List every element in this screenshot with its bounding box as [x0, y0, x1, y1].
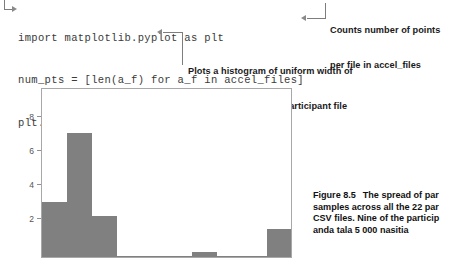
figure-caption-line-1: Figure 8.5The spread of par — [313, 190, 449, 202]
annotation-hist-line-1: Plots a histogram of uniform width of — [188, 66, 353, 78]
annotation-hist-connector-horizontal — [163, 32, 183, 33]
code-leader-arrow-icon — [12, 6, 17, 12]
plot-area — [41, 88, 292, 258]
bar-bin-1 — [42, 202, 67, 257]
bar-bin-10 — [267, 229, 292, 257]
figure-caption-line-3: CSV files. Nine of the particip — [313, 213, 449, 225]
annotation-counts-line-1: Counts number of points — [330, 25, 440, 37]
annotation-hist-connector-vertical — [182, 32, 183, 65]
bar-bin-7 — [192, 252, 217, 257]
code-leader-vertical — [4, 0, 5, 9]
bar-bin-4 — [117, 256, 142, 257]
annotation-counts-connector-horizontal — [307, 18, 326, 19]
y-tick-label-6: 6 — [18, 146, 34, 156]
histogram-chart: 8 6 4 2 — [0, 85, 310, 241]
bar-bin-6 — [167, 256, 192, 257]
bar-bin-9 — [242, 256, 267, 257]
figure-caption-line-2: samples across all the 22 par — [313, 202, 449, 214]
y-tick-label-4: 4 — [18, 180, 34, 190]
figure-caption-line-4: anda tala 5 000 nasitia — [313, 225, 449, 237]
y-tick-label-2: 2 — [18, 214, 34, 224]
bar-bin-8 — [217, 256, 242, 257]
bar-bin-2 — [67, 133, 92, 257]
figure-caption-text-1: The spread of par — [363, 190, 439, 200]
figure-caption-label: Figure 8.5 — [313, 190, 356, 200]
y-tick-label-8: 8 — [18, 112, 34, 122]
bar-series — [42, 89, 291, 257]
bar-bin-5 — [142, 256, 167, 257]
annotation-counts-connector-vertical — [325, 3, 326, 18]
annotation-hist-arrow-icon — [157, 29, 162, 35]
figure-caption: Figure 8.5The spread of par samples acro… — [313, 190, 449, 236]
annotation-counts-arrow-icon — [301, 15, 306, 21]
bar-bin-3 — [92, 216, 117, 257]
